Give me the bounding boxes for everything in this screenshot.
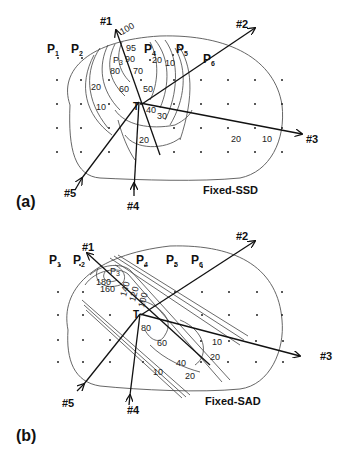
reference-points-b: P1 P2 P3 P4 P5 P6	[49, 253, 203, 277]
svg-text:40: 40	[146, 105, 156, 115]
svg-text:20: 20	[152, 55, 162, 65]
svg-text:3: 3	[116, 270, 120, 277]
panel-label-a: (a)	[16, 193, 36, 210]
beam-label-b2: #2	[236, 230, 248, 242]
svg-text:10: 10	[212, 337, 222, 347]
svg-text:P: P	[144, 42, 152, 56]
svg-text:80: 80	[141, 323, 151, 333]
svg-text:2: 2	[81, 261, 85, 268]
svg-text:40: 40	[176, 358, 186, 368]
isodose-figure: #1 #2 #3 #4 #5 P1 P2 P3 P4 P5 P6 T 100 9…	[0, 0, 353, 459]
target-label-a: T	[133, 101, 139, 112]
panel-title-b: Fixed-SAD	[205, 395, 261, 407]
svg-text:P: P	[203, 52, 211, 66]
beams-a	[75, 28, 302, 196]
svg-text:95: 95	[126, 43, 136, 53]
svg-text:10: 10	[165, 58, 175, 68]
beam-label-a3: #3	[306, 133, 318, 145]
svg-text:90: 90	[125, 54, 135, 64]
svg-text:60: 60	[119, 84, 129, 94]
svg-text:20: 20	[139, 135, 149, 145]
isodose-labels-a: 100 95 90 80 70 60 50 40 30 20 20 10 20 …	[91, 21, 272, 145]
svg-text:P: P	[49, 253, 57, 267]
beam-label-a5: #5	[64, 187, 76, 199]
grid-dots-b	[57, 264, 284, 363]
svg-text:P: P	[73, 253, 81, 267]
svg-text:5: 5	[174, 261, 178, 268]
svg-text:60: 60	[157, 338, 167, 348]
panel-title-a: Fixed-SSD	[203, 184, 258, 196]
beam-label-b3: #3	[320, 350, 332, 362]
beam-label-a2: #2	[236, 18, 248, 30]
svg-text:100: 100	[118, 21, 136, 37]
svg-text:80: 80	[110, 66, 120, 76]
beam-label-b1: #1	[82, 241, 94, 253]
beam-label-b5: #5	[62, 397, 74, 409]
panel-b: #1 #2 #3 #4 #5 P1 P2 P3 P4 P5 P6 T 180 1…	[16, 230, 332, 444]
svg-text:P: P	[191, 253, 199, 267]
svg-text:20: 20	[231, 134, 241, 144]
svg-text:4: 4	[144, 261, 148, 268]
svg-text:10: 10	[96, 102, 106, 112]
svg-text:5: 5	[184, 50, 188, 57]
svg-text:1: 1	[55, 50, 59, 57]
svg-text:P: P	[176, 42, 184, 56]
svg-text:P: P	[71, 42, 79, 56]
svg-text:20: 20	[91, 82, 101, 92]
grid-dots-a	[56, 54, 283, 153]
svg-text:3: 3	[119, 59, 123, 66]
panel-a: #1 #2 #3 #4 #5 P1 P2 P3 P4 P5 P6 T 100 9…	[16, 15, 318, 212]
svg-text:30: 30	[157, 111, 167, 121]
svg-text:50: 50	[143, 84, 153, 94]
svg-text:6: 6	[199, 261, 203, 268]
svg-text:10: 10	[262, 134, 272, 144]
target-label-b: T	[133, 309, 139, 320]
svg-text:20: 20	[210, 352, 220, 362]
svg-text:2: 2	[79, 50, 83, 57]
svg-text:P: P	[166, 253, 174, 267]
svg-text:6: 6	[211, 60, 215, 67]
beam-label-b4: #4	[127, 404, 140, 416]
svg-text:1: 1	[57, 261, 61, 268]
svg-text:160: 160	[100, 284, 115, 294]
beam-label-a1: #1	[100, 15, 112, 27]
beam-label-a4: #4	[127, 200, 140, 212]
svg-text:20: 20	[185, 371, 195, 381]
panel-label-b: (b)	[16, 427, 36, 444]
svg-text:70: 70	[133, 66, 143, 76]
svg-text:10: 10	[153, 367, 163, 377]
svg-text:P: P	[136, 253, 144, 267]
svg-text:P: P	[47, 42, 55, 56]
